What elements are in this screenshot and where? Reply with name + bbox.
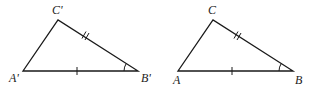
congruent-triangles-diagram: C' A' B' C A B — [0, 0, 310, 92]
vertex-label-a-prime: A' — [8, 71, 19, 85]
triangle-abc: C A B — [172, 3, 303, 87]
triangle-a-prime-b-prime-c-prime: C' A' B' — [8, 3, 151, 85]
vertex-label-c-prime: C' — [52, 3, 63, 17]
triangle-outline — [23, 20, 138, 71]
vertex-label-b: B — [295, 73, 303, 87]
angle-arc-mark — [124, 64, 126, 71]
vertex-label-a: A — [172, 73, 181, 87]
triangle-outline — [178, 20, 293, 71]
vertex-label-b-prime: B' — [141, 71, 151, 85]
vertex-label-c: C — [208, 3, 217, 17]
angle-arc-mark — [279, 64, 281, 71]
